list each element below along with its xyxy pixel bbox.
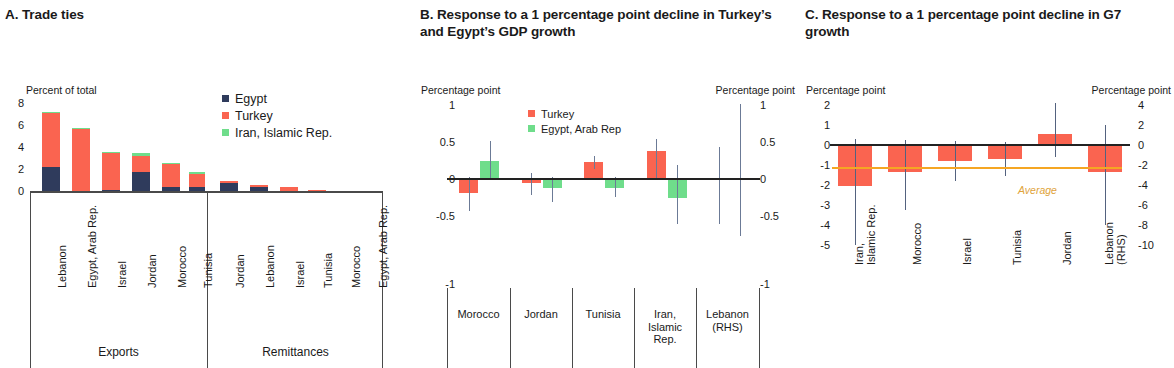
panel-a-category-label: Israel [116,261,128,288]
panel-a-bar-segment [102,153,120,190]
panel-a-bar-segment [189,174,205,188]
panel-a-category-label: Morocco [176,246,188,288]
panel-a-category-label: Jordan [146,254,158,288]
panel-c-ytick-right-neg8: -8 [1138,219,1172,231]
panel-b-cat-div-0 [447,288,448,368]
panel-a-ytick-2: 2 [6,163,24,175]
panel-b-cat-label-morocco: Morocco [448,308,509,321]
panel-a-bar-segment [42,167,60,192]
panel-b-error-bar [656,139,657,178]
panel-a-bar-segment [72,129,90,191]
panel-a-ytick-4: 4 [6,141,24,153]
panel-b-error-bar [719,147,720,224]
panel-b-y-axis-title-right: Percentage point [716,84,795,96]
panel-b-cat-label-jordan: Jordan [511,308,571,321]
panel-a-legend: Egypt Turkey Iran, Islamic Rep. [222,90,332,141]
panel-b: B. Response to a 1 percentage point decl… [415,0,800,368]
panel-c-ytick-right-4: 4 [1138,99,1172,111]
panel-a-bar-segment [220,181,238,183]
panel-c-ytick-left-1: 1 [800,119,830,131]
panel-c-error-bar [1005,142,1006,176]
panel-c-zero-line [830,144,1130,146]
panel-b-error-bar [594,156,595,169]
panel-b-title: B. Response to a 1 percentage point decl… [420,7,785,40]
panel-b-error-bar [469,177,470,212]
legend-swatch-egypt [222,95,229,102]
panel-b-error-bar [490,141,491,178]
panel-c-ytick-right-neg10: -10 [1138,239,1172,251]
panel-c-average-label: Average [1018,184,1057,196]
panel-a-bar-segment [132,172,150,192]
panel-a-ytick-0: 0 [6,185,24,197]
panel-a-bar-segment [72,128,90,129]
legend-item-turkey: Turkey [222,107,332,124]
panel-b-ytick-right-neg1: -1 [760,278,800,290]
panel-c-average-line [832,167,1122,169]
panel-c-ytick-right-neg2: -2 [1138,159,1172,171]
panel-a: A. Trade ties Percent of total 8 6 4 2 0… [0,0,415,368]
panel-a-category-label: Tunisia [322,253,334,288]
panel-a-category-label: Morocco [350,246,362,288]
legend-item-iran: Iran, Islamic Rep. [222,124,332,141]
panel-a-category-label: Egypt, Arab Rep. [86,205,98,288]
panel-c-category-label: Jordan [1061,231,1073,265]
panel-a-ytick-6: 6 [6,119,24,131]
panel-b-ytick-right-neg05: -0.5 [760,210,800,222]
panel-c-title: C. Response to a 1 percentage point decl… [805,7,1165,40]
panel-a-group-label-remittances: Remittances [208,345,383,359]
panel-c-ytick-left-0: 0 [800,139,830,151]
panel-c-ytick-right-2: 2 [1138,119,1172,131]
figure-root: A. Trade ties Percent of total 8 6 4 2 0… [0,0,1174,368]
panel-c: C. Response to a 1 percentage point decl… [800,0,1174,368]
panel-a-group-label-exports: Exports [30,345,207,359]
legend-swatch-turkey [222,112,229,119]
panel-b-cat-label-iran: Iran, Islamic Rep. [635,308,695,346]
panel-b-zero-line [447,178,760,180]
panel-a-bar-segment [132,156,150,172]
panel-a-bar-segment [162,163,180,164]
panel-c-ytick-left-neg5: -5 [800,239,830,251]
panel-c-ytick-left-2: 2 [800,99,830,111]
panel-a-category-label: Israel [294,261,306,288]
panel-b-ytick-left-neg1: -1 [415,278,455,290]
panel-a-category-label: Tunisia [202,253,214,288]
panel-a-title: A. Trade ties [5,7,395,24]
panel-c-ytick-left-neg1: -1 [800,159,830,171]
panel-c-error-bar [905,140,906,210]
panel-c-category-label: Tunisia [1011,230,1023,265]
panel-c-error-bar [1105,125,1106,225]
panel-c-ytick-left-neg3: -3 [800,199,830,211]
panel-a-category-label: Lebanon [264,245,276,288]
panel-a-frame-left [30,191,31,368]
panel-b-cat-div-2 [572,288,573,368]
panel-c-category-label: Israel [961,238,973,265]
panel-b-ytick-right-1: 1 [760,99,800,111]
panel-b-ytick-right-05: 0.5 [760,136,800,148]
panel-a-category-label: Lebanon [56,245,68,288]
panel-b-y-axis-title-left: Percentage point [421,84,500,96]
legend-swatch-iran [222,129,229,136]
panel-c-error-bar [1055,103,1056,157]
panel-b-cat-div-5 [759,288,760,368]
panel-a-bar-segment [42,112,60,114]
panel-a-bar-segment [250,185,268,187]
panel-a-bar-segment [132,153,150,156]
legend-label-egypt: Egypt [235,92,267,106]
panel-c-category-label: Iran, Islamic Rep. [853,204,877,265]
legend-item-egypt: Egypt [222,90,332,107]
panel-b-ytick-right-0: 0 [760,173,800,185]
panel-c-ytick-right-neg4: -4 [1138,179,1172,191]
panel-b-error-bar [740,104,741,236]
legend-label-iran: Iran, Islamic Rep. [235,126,332,140]
panel-b-cat-label-tunisia: Tunisia [573,308,633,321]
panel-b-cat-div-1 [510,288,511,368]
panel-c-category-label: Morocco [911,223,923,265]
panel-b-cat-label-lebanon: Lebanon (RHS) [697,308,758,333]
panel-a-category-label: Jordan [234,254,246,288]
panel-c-category-label: Lebanon (RHS) [1103,222,1127,265]
panel-c-y-axis-title-right: Percentage point [1092,84,1171,96]
legend-label-turkey: Turkey [235,109,273,123]
panel-b-error-bar [677,165,678,224]
panel-a-bar-segment [189,172,205,173]
panel-b-error-bar [615,177,616,198]
